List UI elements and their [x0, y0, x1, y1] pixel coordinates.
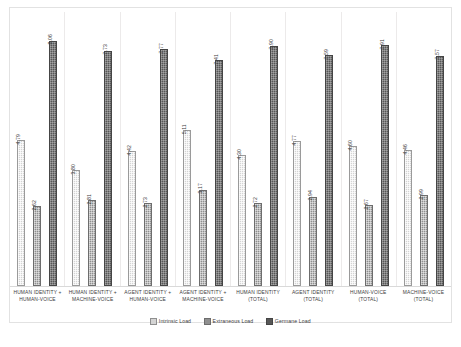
bar[interactable]: 5.11	[183, 130, 191, 286]
bar-value-label: 4.46	[403, 144, 408, 155]
bar-slot: 7.73	[103, 12, 114, 286]
bar-slot: 7.90	[269, 12, 280, 286]
legend-item[interactable]: Intrinsic Load	[150, 318, 191, 325]
bar-value-label: 4.42	[126, 145, 131, 156]
bar-slot: 7.59	[324, 12, 335, 286]
bar[interactable]: 3.17	[199, 190, 207, 287]
bar-slot: 2.72	[253, 12, 264, 286]
bar-value-label: 7.73	[103, 44, 108, 55]
x-axis-label: HUMAN IDENTITY + HUMAN-VOICE	[10, 289, 65, 319]
bar-slot: 3.17	[197, 12, 208, 286]
bar-slot: 2.73	[142, 12, 153, 286]
bar-slot: 7.91	[379, 12, 390, 286]
bar-value-label: 4.30	[237, 149, 242, 160]
bar-value-label: 2.73	[142, 197, 147, 208]
bar-group: 4.792.628.06	[10, 12, 65, 286]
bar[interactable]: 4.46	[404, 150, 412, 286]
bar[interactable]: 2.81	[88, 200, 96, 286]
bar-value-label: 2.99	[419, 189, 424, 200]
x-axis-label: AGENT IDENTITY + HUMAN-VOICE	[120, 289, 175, 319]
bar-value-label: 7.91	[379, 39, 384, 50]
bar-value-label: 3.80	[71, 164, 76, 175]
bar-slot: 4.42	[126, 12, 137, 286]
bar-slot: 7.77	[158, 12, 169, 286]
bar-slot: 7.41	[213, 12, 224, 286]
legend-swatch-icon	[266, 318, 273, 325]
bar[interactable]: 2.62	[33, 206, 41, 286]
bar[interactable]: 2.73	[144, 203, 152, 286]
bar-group: 4.462.997.57	[397, 12, 451, 286]
legend-label: Intrinsic Load	[159, 318, 191, 324]
chart-container: 4.792.628.063.802.817.734.422.737.775.11…	[9, 7, 452, 323]
bar-group: 4.422.737.77	[121, 12, 176, 286]
bar[interactable]: 4.79	[17, 140, 25, 286]
bar-value-label: 4.77	[292, 135, 297, 146]
x-axis-label: AGENT IDENTITY + MACHINE-VOICE	[175, 289, 230, 319]
bar-slot: 8.06	[48, 12, 59, 286]
bar-value-label: 3.17	[198, 183, 203, 194]
bar-slot: 2.67	[363, 12, 374, 286]
bar[interactable]: 8.06	[49, 41, 57, 286]
bar[interactable]: 2.72	[254, 203, 262, 286]
x-axis-label: AGENT IDENTITY (TOTAL)	[286, 289, 341, 319]
bar[interactable]: 7.73	[104, 51, 112, 286]
bar-value-label: 7.57	[435, 49, 440, 60]
bar-group: 4.302.727.90	[231, 12, 286, 286]
bar-slot: 2.94	[308, 12, 319, 286]
legend-swatch-icon	[204, 318, 211, 325]
bar-value-label: 2.72	[253, 197, 258, 208]
bar-group: 4.602.677.91	[342, 12, 397, 286]
bar[interactable]: 4.60	[349, 146, 357, 286]
x-axis-label: HUMAN IDENTITY + MACHINE-VOICE	[65, 289, 120, 319]
bar-value-label: 2.67	[363, 198, 368, 209]
chart-legend: Intrinsic LoadExtraneous LoadGermane Loa…	[10, 318, 451, 325]
bar-value-label: 7.77	[158, 43, 163, 54]
bar-value-label: 5.11	[182, 124, 187, 134]
bar-value-label: 7.90	[269, 39, 274, 50]
legend-label: Extraneous Load	[213, 318, 254, 324]
bar-slot: 7.57	[434, 12, 445, 286]
bar-slot: 4.30	[237, 12, 248, 286]
bar[interactable]: 4.77	[293, 141, 301, 286]
legend-swatch-icon	[150, 318, 157, 325]
bar[interactable]: 3.80	[72, 170, 80, 286]
bar-slot: 2.81	[87, 12, 98, 286]
bar-value-label: 7.59	[324, 49, 329, 60]
bar-slot: 5.11	[181, 12, 192, 286]
bar-slot: 2.99	[418, 12, 429, 286]
x-axis-label: MACHINE-VOICE (TOTAL)	[396, 289, 451, 319]
bar[interactable]: 7.57	[436, 56, 444, 286]
bar-value-label: 4.60	[347, 140, 352, 151]
bar-group: 4.772.947.59	[286, 12, 341, 286]
bar-value-label: 2.81	[87, 194, 92, 205]
legend-label: Germane Load	[275, 318, 311, 324]
bar[interactable]: 7.91	[381, 45, 389, 286]
bar[interactable]: 7.59	[325, 55, 333, 286]
bar-value-label: 2.94	[308, 190, 313, 201]
x-axis-line	[10, 286, 451, 287]
bar-value-label: 2.62	[32, 200, 37, 211]
x-axis-label: HUMAN-VOICE (TOTAL)	[341, 289, 396, 319]
bar[interactable]: 4.42	[128, 151, 136, 286]
bar-value-label: 8.06	[48, 34, 53, 45]
legend-item[interactable]: Extraneous Load	[204, 318, 253, 325]
bar-value-label: 7.41	[214, 54, 219, 65]
bar-group: 3.802.817.73	[65, 12, 120, 286]
bar-value-label: 4.79	[16, 134, 21, 145]
bar-slot: 4.60	[347, 12, 358, 286]
bar-group: 5.113.177.41	[176, 12, 231, 286]
x-axis-label: HUMAN IDENTITY (TOTAL)	[231, 289, 286, 319]
bar[interactable]: 2.94	[309, 197, 317, 287]
bar-slot: 4.79	[16, 12, 27, 286]
bar[interactable]: 7.41	[215, 60, 223, 286]
legend-item[interactable]: Germane Load	[266, 318, 310, 325]
plot-area: 4.792.628.063.802.817.734.422.737.775.11…	[10, 12, 451, 286]
bar[interactable]: 7.77	[160, 49, 168, 286]
bar[interactable]: 7.90	[270, 46, 278, 287]
bar[interactable]: 2.99	[420, 195, 428, 286]
bar-slot: 4.77	[292, 12, 303, 286]
bar[interactable]: 4.30	[238, 155, 246, 286]
x-axis-labels: HUMAN IDENTITY + HUMAN-VOICEHUMAN IDENTI…	[10, 289, 451, 319]
bar-slot: 3.80	[71, 12, 82, 286]
bar[interactable]: 2.67	[365, 205, 373, 286]
